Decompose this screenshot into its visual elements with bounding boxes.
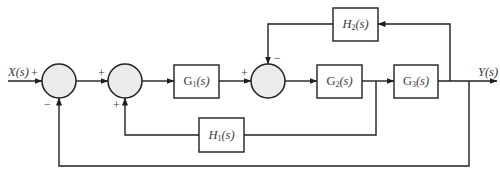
sum3-input-sign: + [241,66,248,80]
g1-arg: (s) [196,74,209,88]
g3-arg: (s) [416,74,429,88]
block-h1: H1(s) [199,118,244,152]
sum2-input-sign: + [98,66,105,80]
sum1-input-sign: + [31,66,38,80]
g1-name: G [183,74,192,88]
summing-junction-3 [251,64,285,98]
g2-arg: (s) [339,74,352,88]
svg-text:H2(s): H2(s) [341,17,368,32]
svg-text:G3(s): G3(s) [403,74,429,89]
svg-text:G1(s): G1(s) [183,74,209,89]
svg-text:H1(s): H1(s) [207,128,234,143]
h2-arg: (s) [355,17,368,31]
sum3-feedback-sign: − [274,51,281,65]
summing-junction-2 [108,64,142,98]
output-label: Y(s) [478,65,498,79]
summing-junction-1 [42,64,76,98]
block-g1: G1(s) [174,65,219,98]
block-h2: H2(s) [333,8,378,41]
g3-name: G [403,74,412,88]
g2-name: G [326,74,335,88]
sum2-feedback-sign: + [113,98,120,112]
block-diagram: X(s) + − + + G1(s) + − G2(s) G3(s) Y(s) … [0,0,500,172]
h1-arg: (s) [221,128,234,142]
svg-text:G2(s): G2(s) [326,74,352,89]
h1-return-path [125,98,199,135]
sum1-feedback-sign: − [44,97,51,111]
block-g2: G2(s) [317,65,362,98]
block-g3: G3(s) [394,65,438,98]
input-label: X(s) [7,65,29,79]
